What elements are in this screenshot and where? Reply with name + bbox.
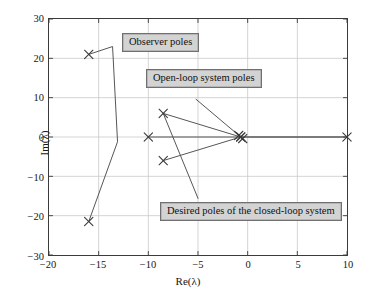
x-tick-label: 5 [295, 259, 300, 270]
y-axis-title: Im(λ) [38, 83, 50, 203]
y-tick-label: 20 [34, 52, 45, 63]
x-tick-label: 0 [245, 259, 250, 270]
annotation-desired-poles: Desired poles of the closed-loop system [160, 202, 342, 221]
x-tick-label: 10 [343, 259, 354, 270]
x-tick-label: −10 [140, 259, 156, 270]
y-tick-label: −30 [28, 251, 44, 262]
annotation-observer-poles: Observer poles [122, 33, 199, 52]
y-tick-label: −20 [28, 211, 44, 222]
annotation-open-loop-poles: Open-loop system poles [146, 69, 262, 88]
x-tick-label: −15 [90, 259, 106, 270]
y-tick-label: 30 [34, 13, 45, 24]
x-tick-label: −5 [192, 259, 203, 270]
x-axis-title: Re(λ) [0, 275, 376, 287]
pole-map-figure: −20−15−10−50510 −30−20−100102030 Re(λ) I… [0, 0, 376, 296]
